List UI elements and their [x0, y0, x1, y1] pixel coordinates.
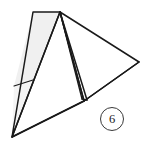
geometry-drawing	[0, 0, 151, 147]
sliver-outer-edge	[60, 12, 87, 100]
geometric-figure: 6	[0, 0, 151, 147]
shaded-wedge-upper	[14, 12, 60, 86]
right-base-edge	[84, 62, 139, 101]
sliver-inner-edge	[60, 12, 82, 99]
